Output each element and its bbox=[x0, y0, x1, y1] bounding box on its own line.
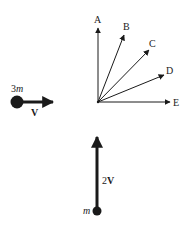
vector-c-label: C bbox=[149, 38, 156, 49]
vector-a-label: A bbox=[94, 14, 102, 25]
vector-b-label: B bbox=[123, 21, 130, 32]
collision-diagram: 3m V A B C D E m 2V bbox=[0, 0, 190, 226]
mass-3m-group: 3m V bbox=[11, 83, 54, 118]
mass-3m-ball bbox=[11, 96, 24, 109]
velocity-2v-label: 2V bbox=[102, 175, 115, 186]
vector-c-arrow bbox=[98, 50, 149, 102]
vector-e-label: E bbox=[173, 97, 179, 108]
vector-b-arrow bbox=[98, 35, 124, 102]
mass-m-group: m 2V bbox=[83, 137, 115, 216]
vector-d-arrow bbox=[98, 75, 164, 102]
mass-3m-label: 3m bbox=[11, 83, 23, 94]
mass-m-label: m bbox=[83, 205, 90, 216]
direction-vectors: A B C D E bbox=[94, 14, 179, 108]
velocity-v-label: V bbox=[31, 107, 39, 118]
vector-d-label: D bbox=[166, 65, 173, 76]
